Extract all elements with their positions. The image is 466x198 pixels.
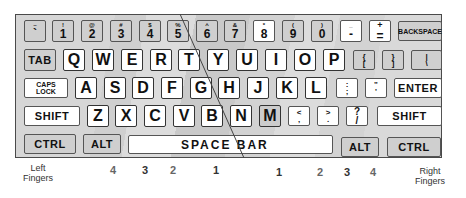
- key-u: U: [236, 49, 258, 71]
- key-caps-lock: CAPSLOCK: [24, 78, 68, 98]
- key-bracket-right: }]: [382, 50, 404, 70]
- key-2: @2: [81, 20, 103, 42]
- left-fingers-label: Left Fingers: [18, 164, 58, 184]
- key-9: (9: [282, 20, 304, 42]
- key-x: X: [115, 105, 137, 127]
- key-p: P: [323, 49, 345, 71]
- key-tilde: ~`: [24, 20, 46, 42]
- key-minus: _-: [340, 20, 362, 42]
- left-finger-3: 3: [142, 164, 148, 176]
- key-period: >.: [317, 106, 339, 126]
- key-r: R: [150, 49, 172, 71]
- key-ctrl-right: CTRL: [387, 137, 441, 157]
- key-7: &7: [224, 20, 246, 42]
- right-finger-4: 4: [370, 166, 376, 178]
- key-e: E: [121, 49, 143, 71]
- key-equals: +=: [369, 20, 391, 42]
- key-o: O: [294, 49, 316, 71]
- key-bracket-left: {[: [353, 50, 375, 70]
- key-enter: ENTER: [394, 78, 442, 98]
- key-k: K: [276, 77, 298, 99]
- key-alt-right: ALT: [341, 137, 379, 157]
- key-3: #3: [110, 20, 132, 42]
- key-ctrl-left: CTRL: [24, 134, 76, 154]
- key-tab: TAB: [24, 49, 56, 71]
- right-finger-2: 2: [317, 166, 323, 178]
- key-d: D: [132, 77, 154, 99]
- right-finger-1: 1: [276, 166, 282, 178]
- key-b: B: [201, 105, 223, 127]
- key-8: *8: [253, 20, 275, 42]
- key-backslash: |\: [411, 50, 442, 70]
- key-4: $4: [139, 20, 161, 42]
- right-fingers-label: Right Fingers: [408, 167, 452, 187]
- key-0: )0: [311, 20, 333, 42]
- key-l: L: [305, 77, 327, 99]
- key-h: H: [218, 77, 240, 99]
- right-finger-3: 3: [344, 166, 350, 178]
- key-6: ^6: [196, 20, 218, 42]
- key-q: Q: [63, 49, 85, 71]
- key-z: Z: [87, 105, 109, 127]
- key-quote: "': [365, 78, 387, 98]
- key-t: T: [178, 49, 200, 71]
- key-y: Y: [207, 49, 229, 71]
- key-space-bar: SPACE BAR: [128, 135, 333, 154]
- key-i: I: [265, 49, 287, 71]
- key-j: J: [247, 77, 269, 99]
- key-slash: ?/: [346, 106, 368, 126]
- left-finger-2: 2: [170, 164, 176, 176]
- left-finger-1: 1: [213, 164, 219, 176]
- key-1: !1: [52, 20, 74, 42]
- key-m: M: [259, 105, 281, 127]
- key-shift-left: SHIFT: [24, 106, 80, 126]
- key-a: A: [75, 77, 97, 99]
- key-shift-right: SHIFT: [377, 106, 442, 126]
- key-s: S: [104, 77, 126, 99]
- key-alt-left: ALT: [83, 134, 121, 154]
- key-n: N: [230, 105, 252, 127]
- key-w: W: [92, 49, 114, 71]
- key-5: %5: [167, 20, 189, 42]
- key-c: C: [144, 105, 166, 127]
- key-v: V: [173, 105, 195, 127]
- key-f: F: [161, 77, 183, 99]
- key-g: G: [190, 77, 212, 99]
- key-comma: <,: [288, 106, 310, 126]
- left-finger-4: 4: [110, 164, 116, 176]
- key-semicolon: :;: [336, 78, 358, 98]
- key-backspace: BACKSPACE: [398, 21, 442, 41]
